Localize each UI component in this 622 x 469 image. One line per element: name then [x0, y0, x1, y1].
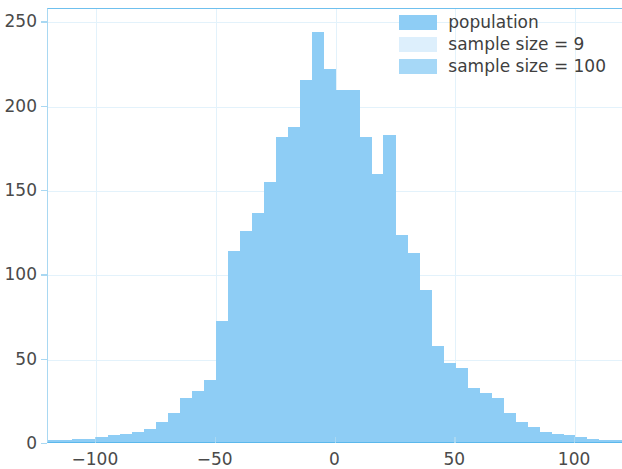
- y-tick-mark: [41, 190, 47, 191]
- legend-swatch: [399, 59, 437, 74]
- histogram-bar: [108, 435, 120, 442]
- histogram-bar: [527, 427, 539, 442]
- histogram-bar: [515, 422, 527, 442]
- histogram-bar: [479, 393, 491, 442]
- histogram-bar: [395, 235, 407, 442]
- histogram-bar: [443, 363, 455, 442]
- histogram-bar: [252, 213, 264, 442]
- y-tick-mark: [41, 106, 47, 107]
- histogram-bar: [587, 439, 599, 442]
- histogram-bar: [312, 32, 324, 442]
- histogram-bar: [300, 80, 312, 443]
- x-tick-mark: [215, 437, 216, 443]
- legend-label: population: [448, 14, 538, 31]
- histogram-bar: [180, 398, 192, 442]
- histogram-bar: [240, 231, 252, 442]
- y-tick-label: 100: [0, 264, 37, 284]
- y-tick-mark: [41, 359, 47, 360]
- y-tick-label: 50: [0, 349, 37, 369]
- y-tick-mark: [41, 21, 47, 22]
- histogram-bar: [539, 432, 551, 442]
- y-tick-mark: [41, 274, 47, 275]
- x-tick-label: 0: [329, 449, 340, 469]
- histogram-bar: [60, 440, 72, 442]
- x-tick-label: −100: [72, 449, 119, 469]
- x-tick-label: 50: [443, 449, 465, 469]
- histogram-bar: [192, 391, 204, 442]
- histogram-bar: [264, 182, 276, 442]
- histogram-figure: −100−50050100050100150200250 populations…: [0, 0, 622, 469]
- legend-label: sample size = 9: [448, 36, 584, 53]
- histogram-bar: [611, 440, 622, 442]
- x-tick-mark: [574, 437, 575, 443]
- histogram-bar: [48, 440, 60, 442]
- y-tick-label: 200: [0, 96, 37, 116]
- x-tick-label: 100: [558, 449, 590, 469]
- histogram-bar: [407, 253, 419, 442]
- histogram-bar: [419, 290, 431, 442]
- histogram-bar: [455, 368, 467, 442]
- histogram-bar: [168, 413, 180, 442]
- histogram-bar: [276, 137, 288, 442]
- y-tick-label: 0: [0, 433, 37, 453]
- histogram-bar: [132, 432, 144, 442]
- histogram-bar: [371, 174, 383, 442]
- histogram-bar: [228, 251, 240, 442]
- y-tick-mark: [41, 443, 47, 444]
- histogram-bar: [503, 413, 515, 442]
- y-tick-label: 150: [0, 180, 37, 200]
- x-tick-mark: [95, 437, 96, 443]
- x-tick-label: −50: [197, 449, 233, 469]
- histogram-bar: [599, 440, 611, 442]
- histogram-bar: [551, 434, 563, 442]
- legend-item: sample size = 100: [399, 58, 606, 75]
- histogram-bar: [216, 321, 228, 442]
- histogram-bar: [347, 90, 359, 442]
- histogram-bar: [72, 439, 84, 442]
- histogram-bar: [144, 429, 156, 442]
- histogram-bar: [431, 346, 443, 442]
- legend-swatch: [399, 37, 437, 52]
- legend-swatch: [399, 15, 437, 30]
- x-tick-mark: [335, 437, 336, 443]
- x-tick-mark: [454, 437, 455, 443]
- y-tick-label: 250: [0, 11, 37, 31]
- histogram-bar: [491, 398, 503, 442]
- legend-item: sample size = 9: [399, 36, 606, 53]
- histogram-bar: [336, 90, 348, 442]
- histogram-bar: [156, 422, 168, 442]
- histogram-bar: [383, 135, 395, 442]
- histogram-bar: [204, 380, 216, 442]
- histogram-bar: [96, 437, 108, 442]
- chart-legend: populationsample size = 9sample size = 1…: [393, 8, 614, 81]
- histogram-bar: [467, 388, 479, 442]
- histogram-bar: [324, 69, 336, 442]
- legend-label: sample size = 100: [448, 58, 606, 75]
- legend-item: population: [399, 14, 606, 31]
- histogram-bar: [359, 137, 371, 442]
- histogram-bar: [120, 434, 132, 442]
- histogram-bar: [575, 437, 587, 442]
- histogram-bar: [288, 127, 300, 442]
